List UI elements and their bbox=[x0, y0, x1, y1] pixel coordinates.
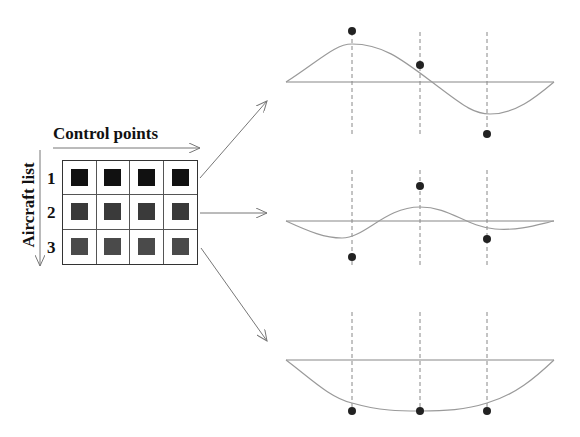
arrow-to-plot-1 bbox=[200, 101, 267, 178]
control-point-dot bbox=[348, 253, 356, 261]
arrow-to-plot-3 bbox=[201, 248, 267, 341]
aircraft-3-plot bbox=[286, 312, 554, 415]
control-point-dot bbox=[416, 407, 424, 415]
aircraft-1-plot bbox=[286, 27, 554, 138]
control-point-dot bbox=[416, 182, 424, 190]
plots-svg bbox=[0, 0, 580, 437]
control-point-dot bbox=[483, 130, 491, 138]
diagram-canvas: Control points Aircraft list 1 2 3 bbox=[0, 0, 580, 437]
control-point-dot bbox=[416, 61, 424, 69]
control-point-dot bbox=[348, 27, 356, 35]
control-point-dot bbox=[483, 407, 491, 415]
aircraft-2-plot bbox=[286, 170, 554, 268]
control-point-dot bbox=[483, 235, 491, 243]
control-point-dot bbox=[348, 407, 356, 415]
